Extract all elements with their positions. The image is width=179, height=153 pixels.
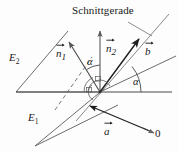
label-angle-alpha-planes: α — [133, 77, 139, 88]
geometry-figure: Schnittgerade E2 E1 n1 n2 b — [0, 0, 179, 153]
plane-E1-subscript: 1 — [35, 117, 39, 126]
title-schnittgerade: Schnittgerade — [72, 5, 134, 16]
plane-E1-outline — [35, 89, 118, 146]
plane-E2-letter: E — [9, 51, 16, 63]
label-angle-alpha-normals: α — [87, 57, 93, 68]
vector-n2-letter: n — [106, 42, 112, 54]
plane-E2-subscript: 2 — [16, 57, 20, 66]
label-vector-a: a — [104, 126, 110, 137]
vector-n1-subscript: 1 — [62, 52, 67, 62]
vector-n1-letter: n — [56, 47, 62, 59]
vector-a-arrow — [90, 106, 152, 132]
label-plane-E2: E2 — [9, 52, 19, 66]
title-leader-line — [128, 22, 152, 36]
label-vector-n2: n2 — [106, 43, 116, 57]
label-origin-zero: 0 — [155, 128, 161, 139]
label-vector-b: b — [145, 46, 151, 57]
label-vector-n1: n1 — [56, 48, 66, 62]
vector-b-letter: b — [145, 45, 151, 57]
vector-n1-arrow — [69, 42, 100, 92]
vector-a-letter: a — [104, 125, 110, 137]
figure-drawing-canvas — [0, 0, 179, 153]
label-plane-E1: E1 — [28, 112, 38, 126]
vector-n2-subscript: 2 — [112, 47, 117, 57]
plane-E1-letter: E — [28, 111, 35, 123]
origin-tick-arrow — [143, 128, 154, 133]
